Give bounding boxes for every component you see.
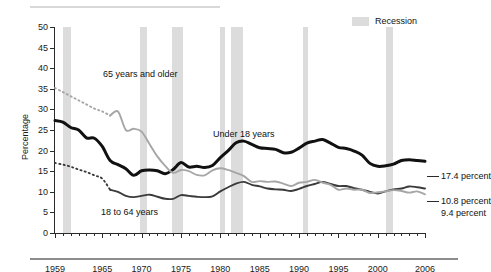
series-segment-solid [110,182,425,199]
x-tick-minor [409,233,410,236]
x-tick-label: 2006 [415,264,435,272]
x-tick-minor [189,233,190,236]
x-tick-minor [118,233,119,236]
x-tick-minor [236,233,237,236]
series-label-under18: Under 18 years [213,129,275,139]
x-tick-label: 1990 [289,264,309,272]
x-tick-minor [354,233,355,236]
x-tick-major [378,233,379,238]
x-tick-major [220,233,221,238]
series-segment-dotted [55,163,110,190]
y-tick-label: 35 [38,85,48,94]
x-tick-major [181,233,182,238]
x-tick-minor [401,233,402,236]
y-tick-label: 25 [38,126,48,135]
x-tick-major [260,233,261,238]
x-tick-minor [94,233,95,236]
x-tick-minor [275,233,276,236]
y-tick-label: 30 [38,105,48,114]
legend: Recession [352,16,417,26]
x-tick-label: 1980 [210,264,230,272]
x-tick-label: 1965 [92,264,112,272]
series-segment-solid [110,111,425,194]
x-tick-major [425,233,426,238]
x-tick-label: 1959 [45,264,65,272]
x-tick-major [55,233,56,238]
y-tick-label: 45 [38,44,48,53]
recession-swatch [352,17,369,26]
series-segment-dotted [55,88,110,116]
x-tick-major [338,233,339,238]
x-tick-minor [63,233,64,236]
x-tick-minor [268,233,269,236]
x-tick-minor [252,233,253,236]
x-tick-minor [331,233,332,236]
top-rule [30,6,220,8]
x-tick-minor [110,233,111,236]
x-tick-label: 1995 [328,264,348,272]
x-tick-minor [362,233,363,236]
x-tick-minor [212,233,213,236]
x-tick-minor [126,233,127,236]
x-tick-minor [197,233,198,236]
x-tick-minor [157,233,158,236]
y-tick-label: 50 [38,23,48,32]
y-tick-label: 20 [38,147,48,156]
x-tick-label: 1985 [250,264,270,272]
x-tick-major [299,233,300,238]
x-tick-minor [394,233,395,236]
x-tick-minor [386,233,387,236]
x-tick-label: 2000 [368,264,388,272]
end-label-adults: 10.8 percent [441,196,491,206]
x-tick-minor [173,233,174,236]
end-label-under18: 17.4 percent [441,171,491,181]
x-tick-minor [228,233,229,236]
x-tick-minor [315,233,316,236]
y-tick-label: 0 [43,229,48,238]
plot-area: 05101520253035404550 1959196519701975198… [55,27,425,233]
series-label-older: 65 years and older [103,69,178,79]
end-label-older: 9.4 percent [441,208,486,218]
x-tick-minor [283,233,284,236]
y-tick-label: 40 [38,64,48,73]
x-tick-minor [291,233,292,236]
x-tick-minor [346,233,347,236]
x-tick-major [102,233,103,238]
x-tick-label: 1970 [132,264,152,272]
x-tick-minor [86,233,87,236]
bottom-rule [30,258,458,260]
leader-adults [427,201,439,202]
y-axis-title: Percentage [20,114,30,160]
x-tick-minor [134,233,135,236]
y-tick-label: 5 [43,208,48,217]
y-tick-label: 15 [38,167,48,176]
series-label-adults: 18 to 64 years [101,207,158,217]
x-tick-minor [307,233,308,236]
leader-under18 [427,176,439,177]
x-tick-minor [149,233,150,236]
x-tick-minor [205,233,206,236]
legend-label: Recession [375,16,417,26]
x-tick-minor [79,233,80,236]
x-tick-minor [370,233,371,236]
y-tick-label: 10 [38,188,48,197]
x-tick-minor [417,233,418,236]
x-tick-minor [323,233,324,236]
x-tick-major [142,233,143,238]
x-tick-minor [71,233,72,236]
x-tick-minor [165,233,166,236]
x-tick-label: 1975 [171,264,191,272]
x-tick-minor [244,233,245,236]
